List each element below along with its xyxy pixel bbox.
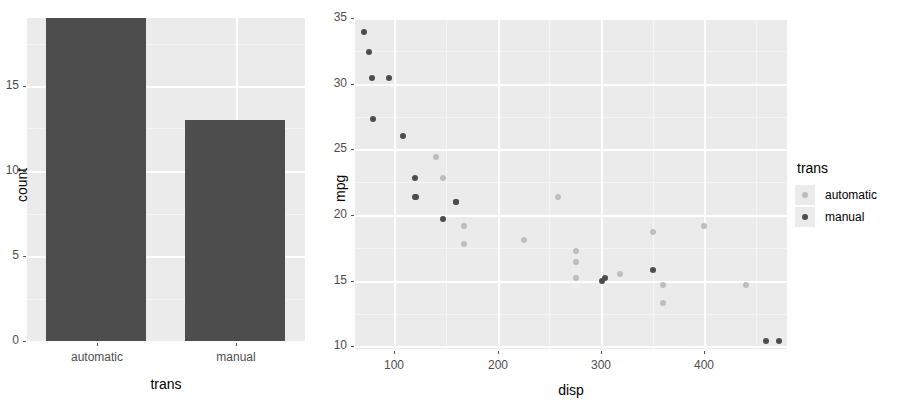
y-tick-mark [23,86,26,87]
grid-major-x [704,18,706,349]
y-tick-label: 35 [309,10,347,24]
bar-manual [185,120,285,341]
x-tick-mark [498,351,499,354]
legend-items: automaticmanual [795,184,905,228]
data-point-automatic [440,175,446,181]
y-tick-mark [351,149,354,150]
grid-minor-x [446,18,447,349]
x-tick-label: 100 [354,358,434,372]
grid-major-x [601,18,603,349]
scatter-plot-y-axis-title: mpg [332,174,348,201]
data-point-manual [413,194,419,200]
legend-key-manual [795,207,815,227]
y-tick-mark [351,84,354,85]
x-tick-label: 200 [458,358,538,372]
y-tick-mark [351,18,354,19]
y-tick-mark [23,256,26,257]
legend-label: automatic [825,188,877,202]
data-point-manual [370,116,376,122]
bar-chart-y-axis-title: count [14,167,30,201]
y-tick-label: 25 [309,141,347,155]
legend: trans automaticmanual [795,160,905,228]
y-tick-label: 30 [309,76,347,90]
legend-label: manual [825,210,864,224]
legend-key-automatic [795,185,815,205]
y-tick-mark [351,346,354,347]
data-point-automatic [555,194,561,200]
data-point-automatic [743,282,749,288]
x-tick-label: automatic [37,350,157,364]
bar-automatic [46,18,146,341]
y-tick-mark [23,341,26,342]
data-point-automatic [573,248,579,254]
y-tick-label: 20 [309,207,347,221]
x-tick-mark [97,343,98,346]
legend-title: trans [795,160,905,176]
data-point-manual [776,338,782,344]
grid-major-y [355,215,787,217]
scatter-plot-panel [355,18,787,349]
grid-major-x [498,18,500,349]
data-point-automatic [660,300,666,306]
y-tick-label: 10 [309,338,347,352]
grid-minor-y [355,248,787,249]
data-point-automatic [461,223,467,229]
grid-minor-x [756,18,757,349]
data-point-automatic [701,223,707,229]
x-tick-label: 300 [561,358,641,372]
bar-chart-x-axis-title: trans [27,376,305,392]
x-tick-mark [236,343,237,346]
grid-minor-y [355,117,787,118]
grid-minor-y [355,51,787,52]
grid-major-y [355,346,787,348]
x-tick-mark [394,351,395,354]
legend-item-manual[interactable]: manual [795,206,905,228]
grid-major-y [27,341,305,343]
grid-major-y [355,281,787,283]
scatter-plot-x-axis-title: disp [355,382,787,398]
figure-canvas: 051015 automaticmanual count trans 10152… [0,0,907,413]
legend-dot-icon [802,192,808,198]
y-tick-label: 15 [309,273,347,287]
grid-major-y [355,18,787,20]
grid-major-y [355,84,787,86]
data-point-manual [650,267,656,273]
data-point-automatic [461,241,467,247]
data-point-automatic [650,229,656,235]
y-tick-mark [351,281,354,282]
legend-dot-icon [802,214,808,220]
legend-item-automatic[interactable]: automatic [795,184,905,206]
grid-minor-x [549,18,550,349]
data-point-manual [400,133,406,139]
x-tick-label: manual [176,350,296,364]
x-tick-mark [601,351,602,354]
data-point-automatic [617,271,623,277]
y-tick-mark [351,215,354,216]
x-tick-label: 400 [664,358,744,372]
x-tick-mark [704,351,705,354]
y-tick-label: 15 [0,78,19,92]
data-point-automatic [660,282,666,288]
grid-minor-x [653,18,654,349]
grid-minor-y [355,182,787,183]
y-tick-label: 0 [0,333,19,347]
y-tick-label: 5 [0,248,19,262]
grid-major-x [394,18,396,349]
data-point-manual [440,216,446,222]
grid-major-y [355,149,787,151]
data-point-automatic [521,237,527,243]
grid-minor-y [355,314,787,315]
